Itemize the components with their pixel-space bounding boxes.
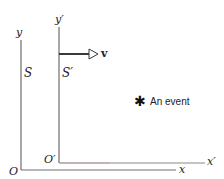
velocity-label: v [101,47,107,60]
event-marker-icon: ✱ [134,94,146,108]
s-origin-label: O [9,165,18,178]
s-prime-origin-label: O′ [44,153,56,166]
s-prime-x-axis-label: x′ [207,155,216,168]
frame-s-label: S [24,66,32,80]
s-x-axis-label: x [179,163,185,176]
reference-frames-diagram [0,0,224,179]
frame-s-prime-label: S′ [62,66,73,80]
s-y-axis-label: y [16,26,22,39]
s-prime-y-axis-label: y′ [55,13,64,26]
event-label: An event [150,96,189,107]
velocity-arrow-head [89,49,98,59]
